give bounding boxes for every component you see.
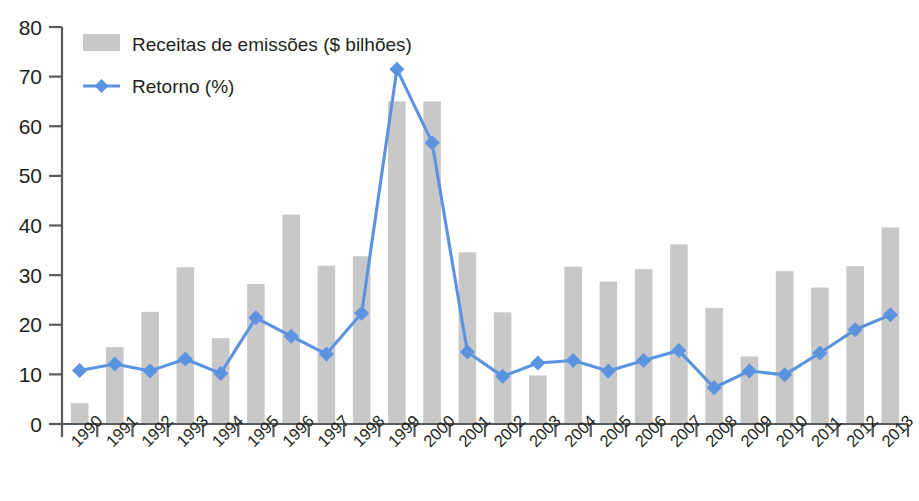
y-tick-label-70: 70 (19, 65, 42, 88)
y-tick-label-0: 0 (30, 413, 42, 436)
return-marker-1999 (389, 62, 404, 77)
chart-legend: Receitas de emissões ($ bilhões) Retorno… (83, 34, 412, 97)
bar-1996 (282, 215, 300, 424)
line-series-group (72, 62, 898, 396)
bar-2005 (600, 282, 618, 424)
y-tick-label-20: 20 (19, 313, 42, 336)
bar-2008 (705, 308, 723, 424)
emissions-revenue-and-return-chart: 01020304050607080 1990199119921993199419… (0, 0, 919, 501)
bar-2013 (882, 227, 900, 424)
bar-2012 (846, 266, 864, 424)
y-tick-label-50: 50 (19, 164, 42, 187)
bar-2003 (529, 375, 547, 424)
legend-label-bar-series: Receitas de emissões ($ bilhões) (132, 34, 412, 55)
bar-2006 (635, 269, 653, 424)
chart-container: 01020304050607080 1990199119921993199419… (0, 0, 919, 501)
bar-2007 (670, 244, 688, 424)
return-line-path (80, 69, 891, 388)
y-tick-label-80: 80 (19, 16, 42, 39)
y-tick-label-10: 10 (19, 363, 42, 386)
bar-2010 (776, 271, 794, 424)
y-tick-label-60: 60 (19, 115, 42, 138)
bar-1995 (247, 284, 265, 424)
return-marker-2003 (530, 355, 545, 370)
y-tick-label-30: 30 (19, 264, 42, 287)
bar-1994 (212, 338, 230, 424)
bar-2004 (564, 267, 582, 424)
legend-diamond-marker-icon (95, 79, 109, 93)
return-marker-1990 (72, 363, 87, 378)
y-axis-tick-labels: 01020304050607080 (19, 16, 42, 436)
bar-1993 (177, 267, 195, 424)
y-tick-label-40: 40 (19, 214, 42, 237)
legend-bar-swatch (83, 34, 120, 51)
bar-1999 (388, 101, 406, 424)
bar-series-group (71, 101, 899, 424)
bar-2002 (494, 312, 512, 424)
legend-label-line-series: Retorno (%) (132, 76, 234, 97)
bar-2001 (459, 252, 477, 424)
